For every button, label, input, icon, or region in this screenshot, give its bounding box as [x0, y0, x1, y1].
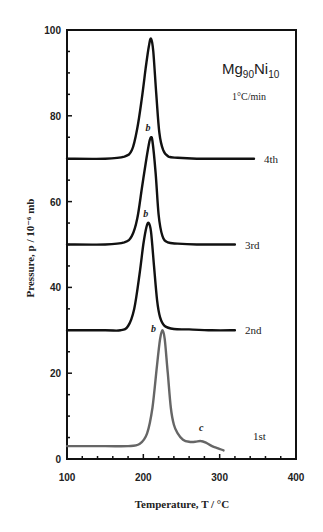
y-tick-label: 80 — [50, 111, 62, 122]
y-tick-label: 60 — [50, 197, 62, 208]
y-tick-label: 40 — [50, 282, 62, 293]
x-tick-label: 200 — [135, 472, 152, 483]
y-tick-label: 100 — [44, 25, 61, 36]
series-labels: 1stbc2ndb3rdb4th — [143, 122, 278, 441]
y-axis-title: Pressure, p / 10⁻⁶ mb — [24, 199, 36, 298]
x-axis-title: Temperature, T / °C — [135, 498, 229, 510]
shoulder-label-c: c — [199, 422, 204, 433]
series-label-2nd: 2nd — [245, 324, 262, 336]
curve-4th — [67, 39, 254, 159]
chart: 020406080100 100200300400 1stbc2ndb3rdb4… — [0, 0, 323, 532]
x-tick-label: 300 — [211, 472, 228, 483]
peak-label-b: b — [145, 122, 150, 133]
x-tick-label: 400 — [288, 472, 305, 483]
composition-label: Mg90Ni10 — [222, 60, 280, 80]
y-tick-label: 20 — [50, 368, 62, 379]
series-label-1st: 1st — [253, 430, 266, 442]
curve-2nd — [67, 223, 235, 331]
peak-label-b: b — [143, 208, 148, 219]
curves — [67, 39, 254, 451]
x-tick-label: 100 — [59, 472, 76, 483]
peak-label-b: b — [151, 323, 156, 334]
series-label-4th: 4th — [264, 153, 279, 165]
y-tick-label: 0 — [55, 454, 61, 465]
series-label-3rd: 3rd — [245, 239, 260, 251]
heating-rate-label: 1°C/min — [232, 91, 266, 102]
